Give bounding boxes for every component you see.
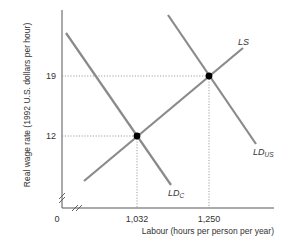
x-origin-label: 0	[54, 214, 59, 224]
ld-c-label: LDC	[168, 188, 185, 199]
labour-market-chart: LS LDC LDUS 19 12 0 1,032 1,250 Labour (…	[0, 0, 285, 252]
y-tick-19: 19	[46, 71, 56, 81]
ld-us-label: LDUS	[253, 147, 274, 158]
y-axis-title: Real wage rate (1992 U.S. dollars per ho…	[22, 23, 32, 188]
ls-label: LS	[238, 37, 249, 47]
ls-curve	[84, 48, 243, 181]
equilibrium-point-canada	[134, 133, 141, 140]
x-axis-title: Labour (hours per person per year)	[142, 226, 274, 236]
ld-c-curve	[66, 33, 171, 185]
y-tick-12: 12	[46, 131, 56, 141]
equilibrium-point-us	[206, 73, 213, 80]
ld-us-curve	[168, 15, 256, 144]
x-tick-1250: 1,250	[198, 214, 221, 224]
x-tick-1032: 1,032	[126, 214, 149, 224]
